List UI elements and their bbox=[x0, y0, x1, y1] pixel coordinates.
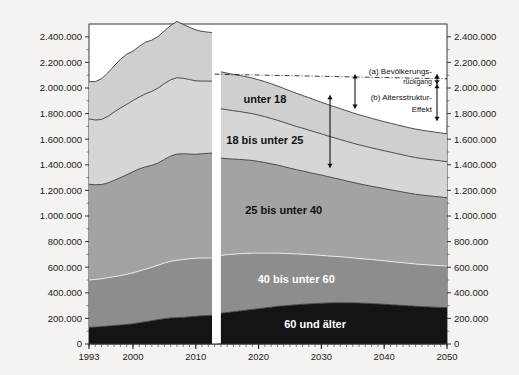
projection-divider bbox=[212, 25, 217, 344]
projection-break-gap bbox=[212, 25, 217, 344]
band-label-40-bis-unter-60: 40 bis unter 60 bbox=[258, 273, 335, 285]
x-tick-label: 2040 bbox=[374, 351, 395, 362]
annotation-b-label-line1: (b) Altersstruktur- bbox=[371, 93, 433, 102]
band-label-18-bis-unter-25: 18 bis unter 25 bbox=[226, 134, 303, 146]
chart-canvas: 0200.000400.000600.000800.0001.000.0001.… bbox=[0, 0, 519, 375]
band-label-unter-18: unter 18 bbox=[243, 93, 286, 105]
y-tick-label-left: 400.000 bbox=[48, 287, 82, 298]
y-tick-label-right: 400.000 bbox=[454, 287, 488, 298]
annotation-a-label-line1: (a) Bevölkerungs- bbox=[369, 67, 432, 76]
y-tick-label-right: 600.000 bbox=[454, 262, 488, 273]
y-tick-label-left: 1.800.000 bbox=[40, 108, 82, 119]
band-label-25-bis-unter-40: 25 bis unter 40 bbox=[245, 204, 322, 216]
y-tick-label-left: 1.200.000 bbox=[40, 185, 82, 196]
annotation-b-label-line2: Effekt bbox=[412, 105, 433, 114]
y-tick-label-right: 1.600.000 bbox=[454, 134, 496, 145]
y-tick-label-right: 1.800.000 bbox=[454, 108, 496, 119]
x-tick-label: 2020 bbox=[248, 351, 269, 362]
annotation-a-label-line2: rückgang bbox=[403, 78, 432, 86]
y-tick-label-left: 1.000.000 bbox=[40, 210, 82, 221]
y-tick-label-right: 1.400.000 bbox=[454, 159, 496, 170]
y-tick-label-left: 0 bbox=[77, 338, 82, 349]
y-tick-label-left: 2.200.000 bbox=[40, 57, 82, 68]
x-tick-label: 2030 bbox=[311, 351, 332, 362]
population-age-structure-chart: 0200.000400.000600.000800.0001.000.0001.… bbox=[0, 0, 519, 375]
y-tick-label-left: 800.000 bbox=[48, 236, 82, 247]
x-tick-label: 1993 bbox=[78, 351, 99, 362]
y-tick-label-left: 1.400.000 bbox=[40, 159, 82, 170]
y-tick-label-left: 1.600.000 bbox=[40, 134, 82, 145]
y-tick-label-right: 200.000 bbox=[454, 313, 488, 324]
y-tick-label-right: 2.000.000 bbox=[454, 82, 496, 93]
x-tick-label: 2000 bbox=[122, 351, 143, 362]
y-tick-label-left: 2.400.000 bbox=[40, 31, 82, 42]
y-tick-label-left: 200.000 bbox=[48, 313, 82, 324]
y-tick-label-right: 0 bbox=[454, 338, 459, 349]
y-tick-label-right: 2.200.000 bbox=[454, 57, 496, 68]
y-tick-label-right: 1.200.000 bbox=[454, 185, 496, 196]
y-tick-label-right: 1.000.000 bbox=[454, 210, 496, 221]
band-label-60-und-aelter: 60 und älter bbox=[284, 318, 346, 330]
y-tick-label-left: 600.000 bbox=[48, 262, 82, 273]
x-tick-label: 2010 bbox=[185, 351, 206, 362]
y-tick-label-right: 2.400.000 bbox=[454, 31, 496, 42]
x-tick-label: 2050 bbox=[436, 351, 457, 362]
y-tick-label-left: 2.000.000 bbox=[40, 82, 82, 93]
y-tick-label-right: 800.000 bbox=[454, 236, 488, 247]
